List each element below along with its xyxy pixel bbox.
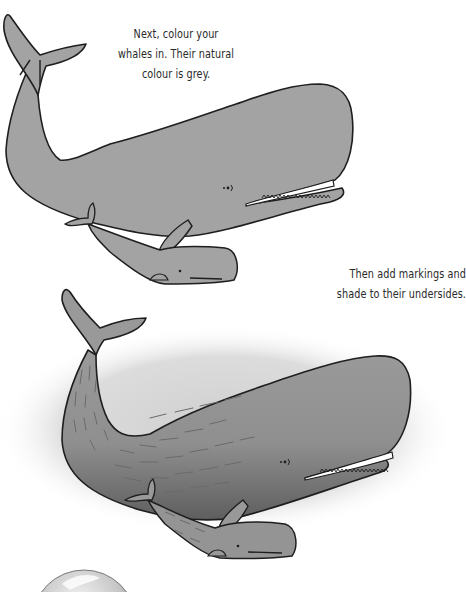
- caption-shade-step: Then add markings and shade to their und…: [303, 264, 466, 304]
- adult-whale-body: [6, 60, 353, 236]
- caption-line: Next, colour your: [107, 24, 245, 44]
- caption-line: whales in. Their natural: [107, 44, 245, 64]
- adult-whale-tail: [4, 15, 86, 95]
- bubble: [32, 570, 136, 592]
- calf-whale-eye: [179, 270, 182, 273]
- caption-line: colour is grey.: [107, 64, 245, 84]
- shaded-calf-whale-eye: [237, 545, 240, 548]
- caption-colour-step: Next, colour your whales in. Their natur…: [107, 24, 245, 84]
- caption-line: Then add markings and: [303, 264, 466, 284]
- caption-line: shade to their undersides.: [303, 284, 466, 304]
